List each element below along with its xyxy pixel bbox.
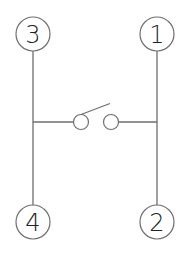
open-switch: [74, 104, 119, 130]
contact-right-icon: [104, 115, 119, 130]
terminal-label: 1: [149, 21, 164, 49]
switch-lever-icon: [81, 104, 110, 115]
terminal-label: 2: [149, 209, 164, 237]
terminal-1: 1: [140, 17, 174, 51]
switch-schematic: 3 1 4 2: [0, 0, 189, 257]
terminal-2: 2: [140, 205, 174, 239]
terminal-label: 3: [25, 21, 40, 49]
terminal-label: 4: [25, 209, 40, 237]
contact-left-icon: [74, 115, 89, 130]
terminal-4: 4: [16, 205, 50, 239]
terminal-3: 3: [16, 17, 50, 51]
